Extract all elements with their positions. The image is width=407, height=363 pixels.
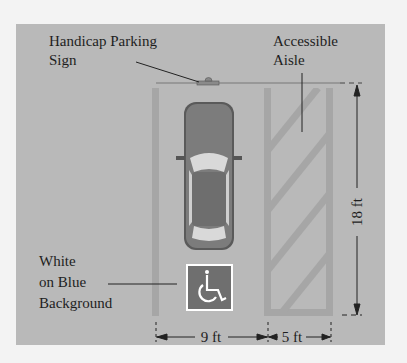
wheelchair-accessible-icon xyxy=(186,264,233,311)
sign-label-line2: Sign xyxy=(49,52,77,69)
aisle-width-label: 5 ft xyxy=(282,329,303,345)
symbol-label-line1: White xyxy=(39,253,76,270)
space-left-stripe xyxy=(152,88,159,316)
sign-leader-line xyxy=(136,62,199,82)
symbol-label-line2: on Blue xyxy=(39,274,86,291)
aisle-label-line2: Aisle xyxy=(273,52,305,69)
accessible-aisle xyxy=(264,88,333,316)
length-label: 18 ft xyxy=(349,197,365,226)
aisle-label-line1: Accessible xyxy=(273,33,338,50)
width-dimensions xyxy=(156,322,331,342)
space-width-label: 9 ft xyxy=(201,329,222,345)
sign-label-line1: Handicap Parking xyxy=(49,33,157,50)
parking-sign-icon xyxy=(197,78,219,85)
symbol-label-line3: Background xyxy=(39,295,112,312)
car-topview-icon xyxy=(176,102,242,250)
